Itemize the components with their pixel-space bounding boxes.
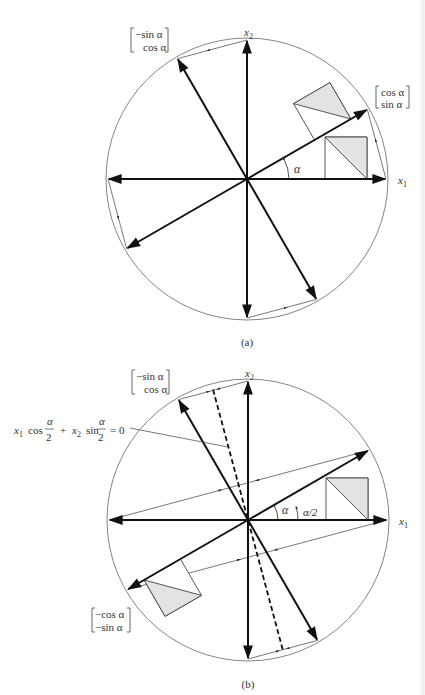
rotation-reflection-diagram: α x1 x2 cos α sin α −sin α cos α (a) bbox=[0, 0, 425, 695]
alpha-angle-arc bbox=[274, 505, 278, 520]
caption-a: (a) bbox=[241, 336, 254, 349]
reflected-vector bbox=[248, 520, 317, 640]
svg-text:cos α: cos α bbox=[143, 41, 166, 53]
x1-axis-label: x1 bbox=[397, 174, 407, 189]
x2-axis-label: x2 bbox=[243, 26, 253, 41]
svg-text:−cos α: −cos α bbox=[95, 608, 125, 620]
x2-axis-label: x2 bbox=[244, 367, 254, 382]
svg-text:+: + bbox=[60, 424, 66, 436]
mirror-line-equation: x1 cos α 2 + x2 sin α 2 = 0 bbox=[13, 415, 125, 443]
svg-text:cos: cos bbox=[28, 424, 43, 436]
direction-arrowhead bbox=[275, 549, 278, 550]
equation-leader-line bbox=[130, 428, 228, 447]
alpha-label: α bbox=[294, 162, 301, 176]
x1-axis-label: x1 bbox=[398, 515, 408, 530]
vector-label-cos-sin: cos α sin α bbox=[376, 86, 409, 110]
vector-label-neg-sin-cos: −sin α cos α bbox=[131, 28, 168, 53]
direction-arrowhead bbox=[237, 560, 240, 561]
alpha-angle-arc bbox=[283, 158, 289, 179]
svg-text:cos α: cos α bbox=[144, 383, 167, 395]
svg-text:2: 2 bbox=[98, 431, 104, 443]
vector-label-neg-cos-neg-sin: −cos α −sin α bbox=[92, 608, 130, 633]
svg-text:α: α bbox=[99, 415, 105, 427]
svg-text:sin α: sin α bbox=[381, 98, 403, 110]
svg-text:x2: x2 bbox=[71, 424, 81, 439]
figure-b-reflection: α α/2 x1 x2 x1 cos α 2 + x2 sin α 2 = 0 … bbox=[13, 367, 408, 691]
rotated-vector bbox=[178, 59, 247, 179]
half-alpha-angle-arc bbox=[296, 507, 298, 520]
rotated-vector bbox=[247, 179, 316, 299]
svg-text:cos α: cos α bbox=[381, 86, 404, 98]
reflected-vector bbox=[179, 400, 248, 520]
half-alpha-label: α/2 bbox=[303, 506, 318, 518]
svg-text:x1: x1 bbox=[13, 424, 23, 439]
svg-text:−sin α: −sin α bbox=[95, 621, 123, 633]
svg-text:2: 2 bbox=[46, 431, 52, 443]
svg-text:−sin α: −sin α bbox=[136, 370, 164, 382]
svg-text:α: α bbox=[47, 415, 53, 427]
direction-arrowhead bbox=[218, 490, 221, 491]
alpha-label: α bbox=[282, 503, 289, 517]
svg-text:= 0: = 0 bbox=[110, 424, 125, 436]
caption-b: (b) bbox=[242, 678, 255, 691]
figure-a-rotation: α x1 x2 cos α sin α −sin α cos α (a) bbox=[106, 26, 409, 349]
rotated-vector bbox=[127, 179, 247, 248]
svg-text:−sin α: −sin α bbox=[135, 28, 163, 40]
vector-label-neg-sin-cos: −sin α cos α bbox=[132, 370, 169, 395]
direction-arrowhead bbox=[257, 480, 260, 481]
